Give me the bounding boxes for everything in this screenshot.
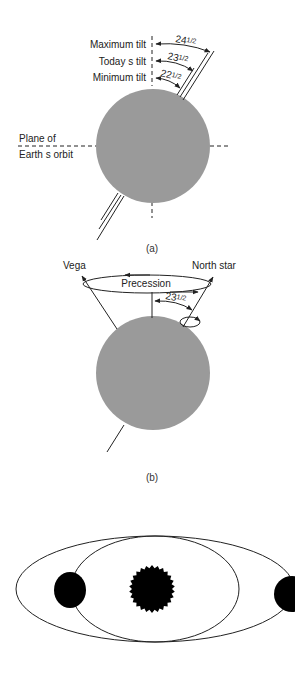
label-north-star: North star xyxy=(192,260,237,271)
label-plane-of: Plane of xyxy=(19,133,56,144)
axis-today-tilt-bottom xyxy=(99,195,121,229)
earth-sphere xyxy=(96,89,210,203)
label-max-tilt: Maximum tilt xyxy=(90,39,146,50)
label-min-tilt: Minimum tilt xyxy=(93,72,147,83)
planet-left xyxy=(54,572,86,608)
caption-a: (a) xyxy=(146,243,158,254)
panel-c-orbits xyxy=(16,536,295,642)
caption-b: (b) xyxy=(146,472,158,483)
cone-line-vega xyxy=(82,276,117,329)
diagram-canvas: 241/2 231/2 221/2 Maximum tilt Today s t… xyxy=(0,0,295,700)
angle-today-tilt: 231/2 xyxy=(167,50,190,65)
angle-min-tilt: 221/2 xyxy=(160,67,183,83)
earth-sphere-b xyxy=(96,316,210,430)
label-earth-orbit: Earth s orbit xyxy=(19,149,73,160)
axis-min-tilt-bottom xyxy=(101,193,118,220)
axis-bottom-b xyxy=(107,425,124,452)
sun-icon xyxy=(129,565,175,613)
panel-a-axial-tilt: 241/2 231/2 221/2 Maximum tilt Today s t… xyxy=(18,33,228,254)
label-precession: Precession xyxy=(121,278,170,289)
label-vega: Vega xyxy=(63,260,86,271)
label-today-tilt: Today s tilt xyxy=(99,56,146,67)
planet-right xyxy=(274,576,295,612)
panel-b-precession: Precession 231/2 Vega North star (b) xyxy=(63,260,237,483)
axis-max-tilt-bottom xyxy=(97,196,124,240)
